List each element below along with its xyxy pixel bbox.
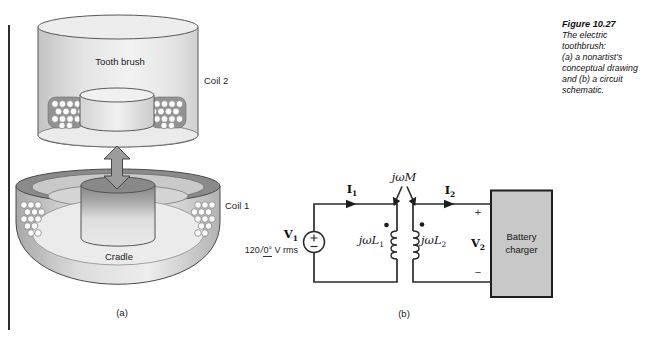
i2-arrowhead (444, 200, 455, 208)
figure-caption: Figure 10.27 The electric toothbrush: (a… (562, 19, 654, 96)
coil2-label: Coil 2 (204, 76, 228, 86)
v2-plus-sign: + (475, 206, 481, 218)
coil1-label: Coil 1 (225, 201, 249, 211)
inductor-l1 (391, 231, 397, 259)
cradle-label: Cradle (105, 252, 133, 262)
figure-caption-title: Figure 10.27 (562, 19, 654, 30)
polarity-dot-l1 (384, 223, 389, 228)
v2-label: V2 (471, 237, 485, 250)
source-value-label: 120/0° V rms (232, 246, 298, 257)
voltage-source (304, 232, 325, 253)
tooth-brush-label: Tooth brush (95, 57, 145, 67)
toothbrush-drawing (38, 15, 198, 147)
l2-label: jωL2 (421, 234, 446, 247)
v1-label: V1 (268, 228, 298, 241)
battery-charger-label: Battery charger (491, 231, 552, 256)
i1-label: I1 (347, 183, 358, 196)
i1-arrowhead (346, 200, 357, 208)
figure-graphics (0, 0, 654, 338)
figure-10-27: Tooth brush Coil 2 Coil 1 Cradle (a) V1 … (0, 0, 654, 338)
panel-b-label: (b) (398, 309, 410, 319)
l1-label: jωL1 (344, 234, 384, 247)
v2-minus-sign: − (475, 266, 481, 278)
mutual-inductance-label: jωM (392, 171, 417, 184)
polarity-dot-l2 (420, 222, 425, 227)
panel-a-label: (a) (116, 308, 128, 318)
mutual-coupling-arrows (393, 187, 416, 207)
toothbrush-core (80, 88, 154, 131)
inductor-l2 (413, 231, 419, 259)
i2-label: I2 (445, 184, 456, 197)
